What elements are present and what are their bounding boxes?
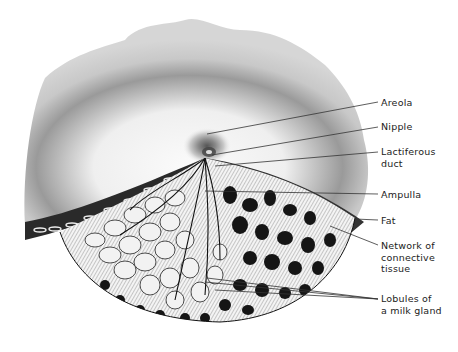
label-lobules-milk-gland: Lobules of a milk gland (381, 293, 442, 316)
label-areola: Areola (381, 97, 413, 109)
label-network-connective-tissue: Network of connective tissue (381, 240, 435, 275)
nipple-highlight (206, 150, 212, 154)
label-ampulla: Ampulla (381, 189, 421, 201)
label-lactiferous-duct: Lactiferous duct (381, 146, 436, 169)
label-fat: Fat (381, 215, 396, 227)
label-nipple: Nipple (381, 121, 413, 133)
